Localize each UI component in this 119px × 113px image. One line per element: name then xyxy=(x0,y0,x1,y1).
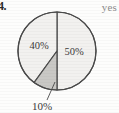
pie-slice-40-label: 40% xyxy=(29,40,49,51)
pie-chart-svg: 50% 40% 10% xyxy=(0,0,119,113)
pie-slice-10-label: 10% xyxy=(32,100,52,112)
pie-chart-figure: 4. yes 50% 40% 10% xyxy=(0,0,119,113)
pie-slice-50-label: 50% xyxy=(64,46,84,57)
